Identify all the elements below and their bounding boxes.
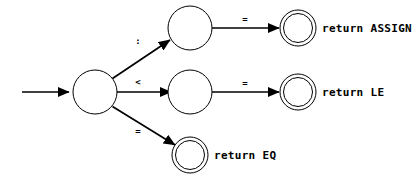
transition-eq-start-label: = [135,126,141,136]
transition-eq-start: = [113,107,176,146]
annotation-return-eq: return EQ [214,149,276,162]
transition-eq-le-label: = [242,78,248,88]
transition-colon: : [113,36,171,79]
state-assign-mid [168,6,212,50]
transition-colon-label: : [135,36,140,46]
state-start [73,70,117,114]
fsm-canvas: : < = = = [0,0,418,184]
transition-lt: < [117,77,171,92]
state-assign-accept [280,10,316,46]
transition-eq-start-line [113,107,176,146]
transition-colon-line [113,40,171,79]
annotation-return-assign: return ASSIGN [322,22,412,35]
fsm-diagram: : < = = = [0,0,418,184]
state-le-accept [280,74,316,110]
transition-eq-assign: = [212,14,279,28]
state-eq-accept [172,137,208,173]
transition-eq-le: = [212,78,279,92]
state-le-mid [168,70,212,114]
transition-lt-label: < [135,77,141,87]
transition-eq-assign-label: = [242,14,248,24]
annotation-return-le: return LE [322,86,384,99]
